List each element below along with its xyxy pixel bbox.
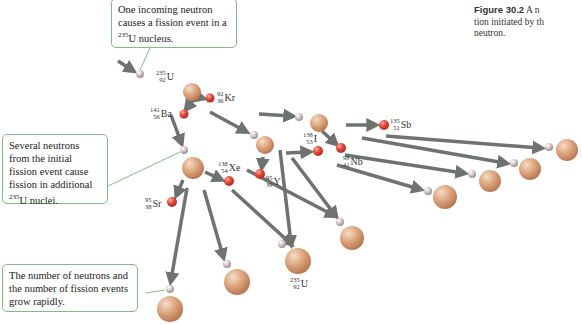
barium-fragment <box>180 110 189 119</box>
atomic-number: 38 <box>145 204 152 211</box>
atomic-number: 53 <box>303 139 313 146</box>
element-symbol: Ba <box>161 108 172 119</box>
label-antimony-135: 13551Sb <box>390 118 411 131</box>
uranium-235-nucleus <box>224 269 250 295</box>
neutron <box>468 170 476 178</box>
atomic-number: 51 <box>390 125 400 132</box>
atomic-number: 36 <box>217 98 224 105</box>
uranium-235-nucleus <box>340 226 364 250</box>
element-symbol: Nb <box>351 156 363 167</box>
callout-rapid-growth: The number of neutrons and the number of… <box>2 264 138 312</box>
label-uranium-235-lower: 23592U <box>290 277 308 290</box>
neutron <box>166 285 174 293</box>
strontium-fragment <box>167 197 177 207</box>
uranium-235-nucleus <box>479 170 501 192</box>
callout-text: Several neutrons from the initial fissio… <box>9 140 92 190</box>
callout-text: One incoming neutron causes a fission ev… <box>118 4 227 28</box>
atomic-number: 41 <box>343 162 350 169</box>
yttrium-fragment <box>255 169 265 179</box>
label-krypton-92: 9236Kr <box>217 91 235 104</box>
neutron <box>545 143 553 151</box>
atomic-number: 92 <box>290 284 300 291</box>
element-symbol: Sr <box>153 198 162 209</box>
neutron <box>295 113 303 121</box>
label-iodine-138: 13853I <box>303 132 317 145</box>
mass-number: 235 <box>9 193 20 201</box>
neutron <box>278 240 286 248</box>
neutron-incoming <box>136 70 144 78</box>
caption-text: A n <box>526 5 539 15</box>
element-symbol: U <box>167 71 174 82</box>
atomic-number: 92 <box>156 77 166 84</box>
figure-caption: Figure 30.2 A n tion initiated by th neu… <box>474 4 582 40</box>
label-xenon-138: 13854Xe <box>218 161 240 174</box>
uranium-235-nucleus <box>285 248 311 274</box>
callout-text: U nuclei. <box>20 195 59 206</box>
atomic-number: 56 <box>150 114 160 121</box>
caption-text: neutron. <box>474 28 505 38</box>
element-symbol: Kr <box>225 92 236 103</box>
uranium-235-nucleus <box>182 157 204 179</box>
mass-number: 235 <box>118 31 129 39</box>
uranium-235-nucleus <box>157 296 183 322</box>
label-yttrium-95: 9539Y <box>266 175 281 188</box>
element-symbol: I <box>314 133 317 144</box>
neutron <box>223 260 231 268</box>
iodine-fragment <box>313 146 323 156</box>
uranium-235-nucleus <box>256 136 274 154</box>
callout-additional-fission: Several neutrons from the initial fissio… <box>2 134 108 204</box>
neutron <box>180 146 188 154</box>
element-symbol: Xe <box>229 162 241 173</box>
krypton-fragment <box>206 94 215 103</box>
figure-label: Figure 30.2 <box>474 4 524 15</box>
neutron-arrows <box>118 61 540 280</box>
label-barium-141: 14156Ba <box>150 107 172 120</box>
callout-initial-fission: One incoming neutron causes a fission ev… <box>111 0 237 48</box>
neutron <box>250 131 258 139</box>
neutron <box>424 187 432 195</box>
element-symbol: Y <box>274 176 281 187</box>
uranium-235-nucleus <box>519 158 541 180</box>
element-symbol: Sb <box>401 119 412 130</box>
neutron <box>510 159 518 167</box>
uranium-235-nucleus <box>433 185 457 209</box>
neutron <box>336 218 344 226</box>
callout-text: The number of neutrons and the number of… <box>9 270 128 307</box>
label-uranium-235: 23592U <box>156 70 174 83</box>
label-strontium-95: 9538Sr <box>145 197 161 210</box>
callout-text: U nucleus. <box>129 33 174 44</box>
uranium-235-nucleus <box>310 114 328 132</box>
atomic-number: 39 <box>266 182 273 189</box>
element-symbol: U <box>301 278 308 289</box>
antimony-fragment <box>379 120 389 130</box>
callout-connectors <box>108 48 180 293</box>
xenon-fragment <box>224 176 234 186</box>
niobium-fragment <box>336 143 346 153</box>
caption-text: tion initiated by th <box>474 17 544 27</box>
uranium-235-nucleus <box>556 139 578 161</box>
uranium-235-nucleus <box>183 83 201 101</box>
atomic-number: 54 <box>218 168 228 175</box>
label-niobium-98: 9841Nb <box>343 155 363 168</box>
